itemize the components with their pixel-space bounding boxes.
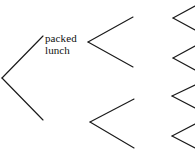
upper-branch-lower-arm — [88, 42, 133, 67]
upper-branch — [88, 17, 133, 67]
node-label-line-1: packed — [45, 33, 77, 45]
node-label-packed-lunch: packed lunch — [45, 33, 77, 56]
lower-branch — [90, 99, 134, 148]
leaf-branch-3-upper-arm — [172, 85, 195, 96]
leaf-branch-2-upper-arm — [173, 46, 195, 58]
root-branch-lower-arm — [2, 78, 43, 120]
root-branch — [2, 36, 43, 120]
leaf-branch-4-lower-arm — [172, 136, 195, 148]
root-branch-upper-arm — [2, 36, 43, 78]
leaf-branch-4-upper-arm — [172, 124, 195, 136]
leaf-branch-1 — [173, 6, 195, 30]
leaf-branch-3-lower-arm — [172, 96, 195, 108]
tree-branch-graphics — [0, 0, 195, 150]
leaf-branch-2-lower-arm — [173, 58, 195, 70]
lower-branch-lower-arm — [90, 122, 134, 148]
leaf-branch-2 — [173, 46, 195, 70]
leaf-branch-4 — [172, 124, 195, 148]
lower-branch-upper-arm — [90, 99, 134, 122]
node-label-line-2: lunch — [45, 45, 77, 57]
upper-branch-upper-arm — [88, 17, 133, 42]
leaf-branch-3 — [172, 85, 195, 108]
diagram-canvas: packed lunch — [0, 0, 195, 150]
leaf-branch-1-upper-arm — [173, 6, 195, 18]
leaf-branch-1-lower-arm — [173, 18, 195, 30]
